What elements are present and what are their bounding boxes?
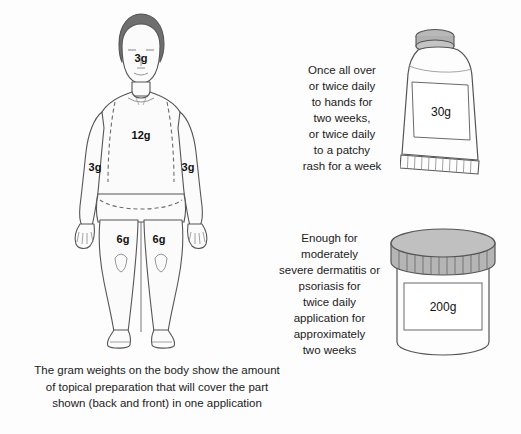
caption-line-1: The gram weights on the body show the am… [14,362,300,379]
tube-note-line-5: or twice daily [283,126,401,142]
tube-illustration: 30g [400,24,504,176]
caption-line-2: of topical preparation that will cover t… [14,379,300,396]
tube-note-line-7: rash for a week [283,158,401,174]
jar-usage-note: Enough for moderately severe dermatitis … [258,230,401,358]
jar-note-line-1: Enough for [258,230,401,246]
jar-note-line-4: psoriasis for [258,278,401,294]
jar-lid-top [391,229,495,257]
gram-label-leg-left: 6g [153,233,166,245]
jar-note-line-8: two weeks [258,342,401,358]
jar-note-line-6: application for [258,310,401,326]
caption-line-3: shown (back and front) in one applicatio… [14,395,300,412]
hips-shape [97,194,186,222]
gram-label-torso: 12g [132,129,151,141]
jar-note-line-5: twice daily [258,294,401,310]
gram-label-leg-right: 6g [117,233,130,245]
jar-note-line-3: severe dermatitis or [258,262,401,278]
tube-note-line-6: to a patchy [283,142,401,158]
jar-illustration: 200g [386,226,502,360]
tube-note-line-2: or twice daily [283,78,401,94]
jar-size-label: 200g [430,300,457,314]
figure-canvas: 3g 12g 3g 3g 6g 6g The gram weights on t… [0,0,521,434]
tube-size-label: 30g [431,105,451,119]
foot-right-shape [107,330,130,348]
tube-note-line-1: Once all over [283,62,401,78]
tube-usage-note: Once all over or twice daily to hands fo… [283,62,401,174]
figure-caption: The gram weights on the body show the am… [14,362,300,412]
body-diagram: 3g 12g 3g 3g 6g 6g [16,6,266,358]
gram-label-arm-left: 3g [182,161,195,173]
jar-note-line-2: moderately [258,246,401,262]
jar-note-line-7: approximately [258,326,401,342]
gram-label-head: 3g [135,52,148,64]
neck-shape [132,82,150,96]
tube-note-line-4: two weeks, [283,110,401,126]
gram-label-arm-right: 3g [89,161,102,173]
tube-note-line-3: to hands for [283,94,401,110]
foot-left-shape [152,330,175,348]
